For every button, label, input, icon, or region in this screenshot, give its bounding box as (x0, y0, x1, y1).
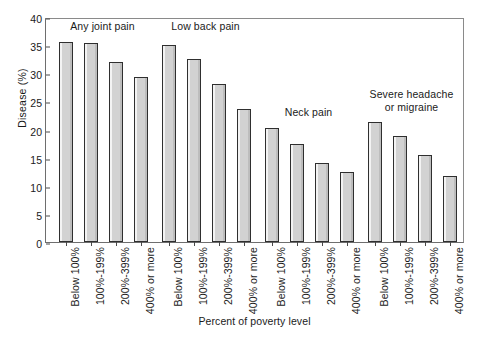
x-axis-tick-mark (347, 242, 348, 246)
bar (368, 122, 382, 242)
y-axis-tick-label: 30 (30, 70, 42, 81)
x-axis-tick-mark (272, 242, 273, 246)
x-axis-tick-label: 200%-399% (325, 247, 337, 305)
bar (109, 62, 123, 242)
bar (187, 59, 201, 242)
x-axis-tick-label: 400% or more (144, 247, 156, 314)
y-axis-tick-mark (46, 103, 50, 104)
y-axis-tick-label: 5 (36, 211, 42, 222)
bar (443, 176, 457, 242)
x-axis-tick-label: 200%-399% (119, 247, 131, 305)
y-axis-tick-label: 35 (30, 42, 42, 53)
bar (315, 163, 329, 242)
y-axis-tick-label: 10 (30, 183, 42, 194)
bar (59, 42, 73, 242)
x-axis-tick-label: 400% or more (453, 247, 465, 314)
x-axis-tick-mark (194, 242, 195, 246)
x-axis-tick-mark (400, 242, 401, 246)
bar (237, 109, 251, 242)
x-axis-tick-mark (297, 242, 298, 246)
group-title: Low back pain (143, 20, 268, 33)
x-axis-tick-label: Below 100% (275, 247, 287, 306)
bar (84, 43, 98, 242)
y-axis-title: Disease (%) (16, 38, 28, 158)
y-axis-tick-mark (46, 131, 50, 132)
x-axis-tick-mark (322, 242, 323, 246)
x-axis-tick-label: 100%-199% (300, 247, 312, 305)
plot-area: 0510152025303540 (45, 18, 464, 243)
x-axis-tick-mark (244, 242, 245, 246)
group-title: Severe headache or migraine (349, 88, 474, 113)
bar (290, 144, 304, 242)
y-axis-tick-label: 25 (30, 98, 42, 109)
y-axis-tick-label: 20 (30, 126, 42, 137)
bar (340, 172, 354, 242)
bar (134, 77, 148, 242)
y-axis-tick-mark (46, 75, 50, 76)
x-axis-tick-mark (141, 242, 142, 246)
x-axis-tick-label: 100%-199% (403, 247, 415, 305)
x-axis-tick-label: Below 100% (378, 247, 390, 306)
y-axis-tick-label: 15 (30, 154, 42, 165)
x-axis-tick-label: 200%-399% (428, 247, 440, 305)
y-axis-tick-mark (46, 187, 50, 188)
x-axis-tick-mark (450, 242, 451, 246)
x-axis-tick-label: 200%-399% (222, 247, 234, 305)
x-axis-tick-label: 400% or more (350, 247, 362, 314)
bar-chart-figure: Disease (%) 0510152025303540 Percent of … (0, 0, 478, 339)
bar (418, 155, 432, 242)
x-axis-tick-label: 100%-199% (94, 247, 106, 305)
y-axis-tick-mark (46, 244, 50, 245)
bar (265, 128, 279, 242)
x-axis-tick-mark (169, 242, 170, 246)
x-axis-tick-mark (375, 242, 376, 246)
bar (162, 45, 176, 242)
x-axis-tick-mark (116, 242, 117, 246)
y-axis-tick-mark (46, 159, 50, 160)
x-axis-tick-mark (219, 242, 220, 246)
bar (393, 136, 407, 242)
bar (212, 84, 226, 242)
x-axis-tick-label: Below 100% (69, 247, 81, 306)
y-axis-tick-mark (46, 215, 50, 216)
y-axis-tick-mark (46, 47, 50, 48)
x-axis-tick-mark (91, 242, 92, 246)
x-axis-tick-mark (425, 242, 426, 246)
x-axis-tick-mark (66, 242, 67, 246)
x-axis-tick-label: Below 100% (172, 247, 184, 306)
x-axis-title: Percent of poverty level (45, 315, 464, 327)
x-axis-tick-label: 100%-199% (197, 247, 209, 305)
x-axis-tick-label: 400% or more (247, 247, 259, 314)
y-axis-tick-label: 0 (36, 239, 42, 250)
